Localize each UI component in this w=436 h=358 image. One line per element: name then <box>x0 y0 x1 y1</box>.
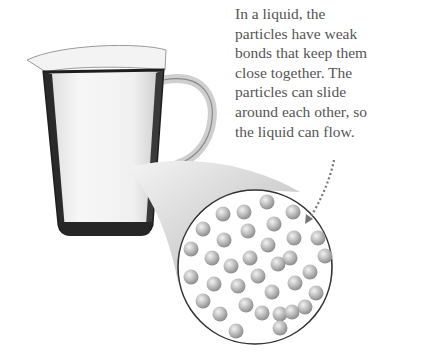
particles-magnified-view <box>178 190 333 344</box>
caption-line: particles can slide <box>235 82 435 102</box>
caption-line: In a liquid, the <box>235 4 435 24</box>
caption-line: close together. The <box>235 63 435 83</box>
caption-line: around each other, so <box>235 102 435 122</box>
caption-text: In a liquid, the particles have weak bon… <box>235 4 435 141</box>
caption-line: particles have weak <box>235 24 435 44</box>
caption-line: bonds that keep them <box>235 43 435 63</box>
caption-line: the liquid can flow. <box>235 122 435 142</box>
